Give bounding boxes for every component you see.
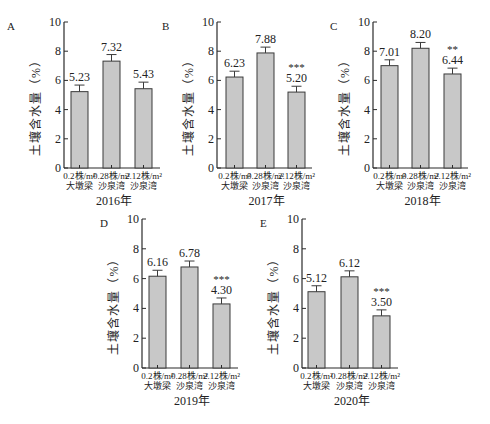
- chart-panel-d: D0246810土壤含水量（%）6.160.2株/m²大墩梁6.780.28株/…: [100, 212, 240, 408]
- bar: [412, 48, 429, 168]
- panel-label: A: [7, 20, 15, 32]
- x-axis-label: 2016年: [96, 194, 132, 208]
- x-tick-label-site: 沙泉湾: [208, 380, 235, 391]
- y-tick-label: 8: [133, 242, 139, 256]
- y-tick-label: 4: [208, 103, 214, 117]
- value-label: 4.30: [211, 283, 232, 297]
- x-tick-label-site: 沙泉湾: [407, 180, 434, 191]
- y-tick-label: 6: [55, 73, 61, 87]
- x-tick-label-site: 大墩梁: [144, 380, 171, 391]
- bar: [341, 277, 358, 368]
- bar: [149, 276, 166, 368]
- y-tick-label: 8: [55, 44, 61, 58]
- value-label: 7.88: [255, 32, 276, 46]
- value-label: 5.43: [133, 67, 154, 81]
- y-tick-label: 10: [127, 212, 139, 226]
- y-tick-label: 8: [364, 44, 370, 58]
- bar: [71, 92, 88, 168]
- panel-label: C: [330, 20, 337, 32]
- y-tick-label: 10: [287, 212, 299, 226]
- chart-panel-a: A0246810土壤含水量（%）5.230.2株/m²大墩梁7.320.28株/…: [7, 15, 162, 208]
- chart-panel-b: B0246810土壤含水量（%）6.230.2株/m²大墩梁7.880.28株/…: [162, 15, 315, 208]
- y-tick-label: 2: [364, 132, 370, 146]
- value-label: 5.23: [69, 70, 90, 84]
- x-tick-label-site: 沙泉湾: [98, 180, 125, 191]
- bar: [288, 92, 305, 168]
- value-label: 3.50: [371, 295, 392, 309]
- x-tick-label-site: 沙泉湾: [176, 380, 203, 391]
- y-axis-label: 土壤含水量（%）: [28, 54, 43, 156]
- panel-label: B: [162, 20, 169, 32]
- bar: [381, 66, 398, 168]
- value-label: 6.78: [179, 246, 200, 260]
- x-tick-label-site: 沙泉湾: [252, 180, 279, 191]
- panel-label: D: [100, 217, 108, 229]
- y-tick-label: 0: [133, 361, 139, 375]
- chart-panel-c: C0246810土壤含水量（%）7.010.2株/m²大墩梁8.200.28株/…: [330, 15, 471, 208]
- value-label: 6.12: [339, 256, 360, 270]
- y-tick-label: 6: [208, 73, 214, 87]
- y-tick-label: 10: [49, 15, 61, 29]
- y-tick-label: 0: [55, 161, 61, 175]
- x-tick-label-density: 0.2株/m²: [300, 370, 333, 381]
- y-axis-label: 土壤含水量（%）: [181, 54, 196, 156]
- bar: [213, 304, 230, 368]
- y-tick-label: 4: [133, 301, 139, 315]
- x-axis-label: 2019年: [174, 394, 210, 408]
- y-axis-label: 土壤含水量（%）: [337, 54, 352, 156]
- x-tick-label-site: 沙泉湾: [130, 180, 157, 191]
- significance-marker: ***: [288, 61, 305, 73]
- x-tick-label-density: 2.12株/m²: [363, 370, 400, 381]
- x-tick-label-density: 0.2株/m²: [141, 370, 174, 381]
- significance-marker: ***: [373, 285, 390, 297]
- x-tick-label-site: 沙泉湾: [336, 380, 363, 391]
- y-tick-label: 4: [364, 103, 370, 117]
- y-tick-label: 6: [133, 272, 139, 286]
- y-tick-label: 0: [364, 161, 370, 175]
- y-tick-label: 4: [293, 301, 299, 315]
- bar-chart-grid: A0246810土壤含水量（%）5.230.2株/m²大墩梁7.320.28株/…: [0, 0, 490, 424]
- value-label: 6.16: [147, 255, 168, 269]
- value-label: 7.01: [379, 45, 400, 59]
- bar: [444, 74, 461, 168]
- value-label: 6.44: [442, 53, 463, 67]
- x-tick-label-site: 大墩梁: [221, 180, 248, 191]
- significance-marker: **: [447, 43, 458, 55]
- x-tick-label-site: 大墩梁: [303, 380, 330, 391]
- y-tick-label: 8: [293, 242, 299, 256]
- x-tick-label-site: 沙泉湾: [439, 180, 466, 191]
- x-axis-label: 2018年: [405, 194, 441, 208]
- x-tick-label-density: 2.12株/m²: [434, 170, 471, 181]
- x-tick-label-density: 0.2株/m²: [63, 170, 96, 181]
- y-tick-label: 2: [293, 331, 299, 345]
- x-axis-label: 2017年: [249, 194, 285, 208]
- x-tick-label-site: 大墩梁: [66, 180, 93, 191]
- y-tick-label: 8: [208, 44, 214, 58]
- y-tick-label: 6: [364, 73, 370, 87]
- figure: A0246810土壤含水量（%）5.230.2株/m²大墩梁7.320.28株/…: [0, 0, 490, 424]
- chart-panel-e: E0246810土壤含水量（%）5.120.2株/m²大墩梁6.120.28株/…: [260, 212, 400, 408]
- x-axis-label: 2020年: [334, 394, 370, 408]
- y-axis-label: 土壤含水量（%）: [106, 253, 121, 355]
- bar: [308, 292, 325, 368]
- y-tick-label: 10: [202, 15, 214, 29]
- bar: [103, 61, 120, 168]
- x-tick-label-density: 2.12株/m²: [278, 170, 315, 181]
- y-axis-label: 土壤含水量（%）: [266, 253, 281, 355]
- x-tick-label-site: 沙泉湾: [283, 180, 310, 191]
- bar: [226, 77, 243, 168]
- y-tick-label: 2: [55, 132, 61, 146]
- bar: [373, 316, 390, 368]
- bar: [135, 89, 152, 168]
- value-label: 6.23: [224, 56, 245, 70]
- x-tick-label-site: 沙泉湾: [368, 380, 395, 391]
- x-tick-label-density: 2.12株/m²: [203, 370, 240, 381]
- x-tick-label-density: 2.12株/m²: [125, 170, 162, 181]
- y-tick-label: 10: [358, 15, 370, 29]
- y-tick-label: 6: [293, 272, 299, 286]
- value-label: 8.20: [410, 27, 431, 41]
- y-tick-label: 4: [55, 103, 61, 117]
- y-tick-label: 0: [293, 361, 299, 375]
- x-tick-label-site: 大墩梁: [376, 180, 403, 191]
- panel-label: E: [260, 217, 267, 229]
